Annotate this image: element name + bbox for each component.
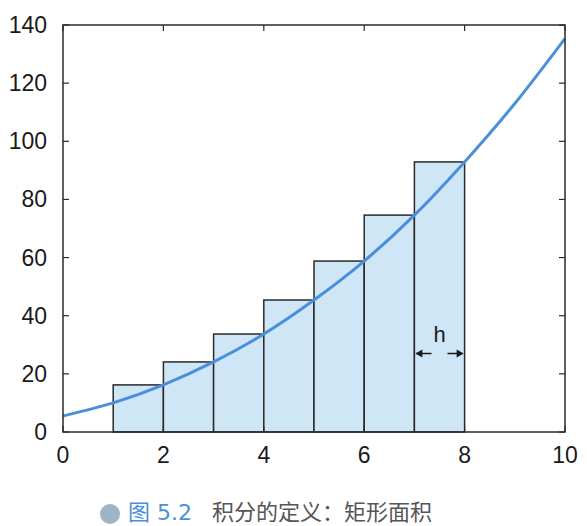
figure-number: 图 5.2	[128, 500, 192, 525]
y-tick-label: 0	[34, 419, 47, 445]
figure-bullet-icon	[100, 504, 120, 524]
figure-caption: 图 5.2积分的定义：矩形面积	[100, 494, 432, 526]
y-tick-label: 20	[21, 361, 47, 387]
x-tick-label: 6	[358, 442, 371, 468]
bar	[113, 385, 163, 432]
y-tick-label: 60	[21, 245, 47, 271]
bar	[414, 162, 464, 432]
x-tick-label: 10	[552, 442, 578, 468]
h-label: h	[433, 322, 445, 347]
y-tick-label: 100	[9, 128, 47, 154]
x-tick-label: 0	[57, 442, 70, 468]
y-tick-label: 40	[21, 303, 47, 329]
x-tick-label: 4	[257, 442, 270, 468]
bar	[264, 300, 314, 432]
x-tick-label: 8	[458, 442, 471, 468]
y-tick-label: 140	[9, 12, 47, 38]
x-tick-label: 2	[157, 442, 170, 468]
bar	[314, 261, 364, 432]
figure-caption-text: 积分的定义：矩形面积	[212, 500, 432, 525]
y-tick-label: 120	[9, 70, 47, 96]
bar	[364, 215, 414, 432]
rectangle-bars	[113, 162, 464, 432]
y-tick-label: 80	[21, 186, 47, 212]
